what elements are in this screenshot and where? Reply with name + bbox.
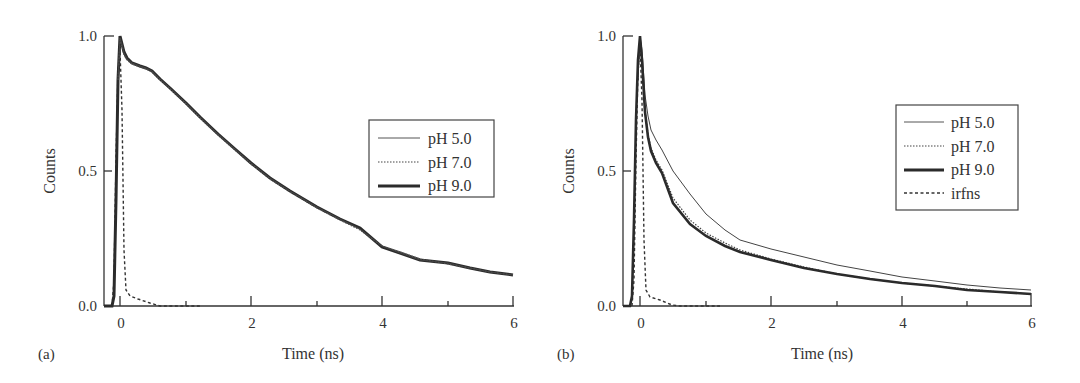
panel-a-xtick-4: 4 [379, 315, 387, 331]
panel-a-ytick-0: 0.0 [78, 298, 97, 314]
panel-b-ylabel: Counts [560, 148, 577, 193]
panel-b-xtick-6: 6 [1028, 315, 1036, 331]
panel-a-xtick-2: 2 [248, 315, 256, 331]
legend-a-ph7-label: pH 7.0 [428, 154, 472, 172]
panel-a-legend: pH 5.0 pH 7.0 pH 9.0 [369, 120, 494, 197]
panel-a-irf-curve [112, 50, 200, 306]
panel-b-ytick-0: 0.0 [597, 298, 616, 314]
panel-b-xtick-2: 2 [768, 315, 776, 331]
panel-b-ytick-1: 1.0 [597, 28, 616, 44]
panel-a-ylabel: Counts [41, 148, 58, 193]
panel-a-ytick-1: 1.0 [78, 28, 97, 44]
legend-b-ph7-label: pH 7.0 [951, 138, 995, 156]
legend-b-ph5-label: pH 5.0 [951, 114, 995, 132]
panel-a-label: (a) [38, 346, 55, 363]
panel-b-label: (b) [557, 346, 575, 363]
legend-b-irfns-label: irfns [951, 185, 980, 202]
panel-b: 1.0 0.5 0.0 0 2 4 6 Time (ns) Counts (b)… [557, 28, 1036, 363]
panel-a: 1.0 0.5 0.0 0 2 4 6 Time (ns) Counts (a)… [38, 28, 518, 363]
panel-b-xlabel: Time (ns) [791, 345, 853, 363]
panel-a-xtick-6: 6 [510, 315, 518, 331]
legend-a-ph9-label: pH 9.0 [428, 177, 472, 195]
panel-a-ytick-05: 0.5 [78, 163, 97, 179]
panel-b-legend: pH 5.0 pH 7.0 pH 9.0 irfns [896, 105, 1018, 210]
panel-a-xtick-0: 0 [117, 315, 125, 331]
panel-b-xtick-0: 0 [637, 315, 645, 331]
panel-a-xlabel: Time (ns) [282, 345, 344, 363]
legend-b-ph9-label: pH 9.0 [951, 161, 995, 179]
panel-b-ytick-05: 0.5 [597, 163, 616, 179]
legend-a-ph5-label: pH 5.0 [428, 130, 472, 148]
panel-b-xtick-4: 4 [899, 315, 907, 331]
